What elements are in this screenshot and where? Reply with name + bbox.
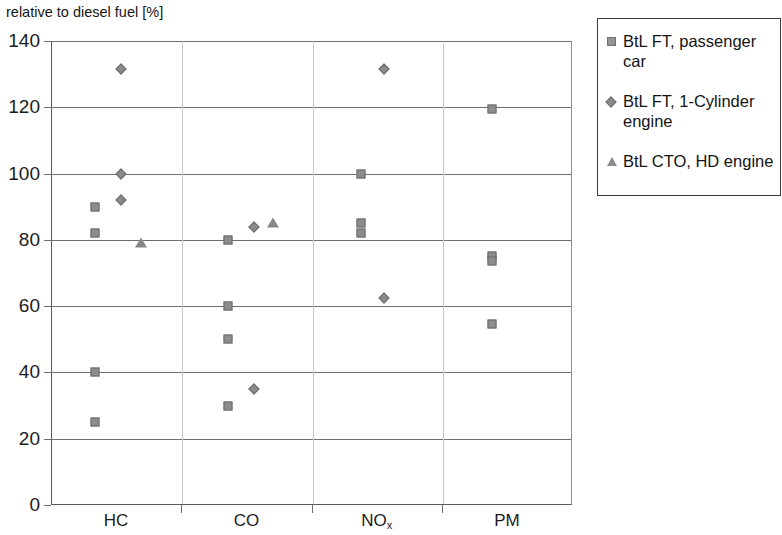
y-axis-tick-label: 40 — [19, 362, 40, 381]
y-axis-tick-mark — [44, 107, 51, 108]
data-point-square — [488, 320, 497, 329]
data-point-square — [90, 229, 99, 238]
gridline — [52, 174, 571, 175]
data-point-diamond — [378, 63, 389, 74]
data-point-square — [356, 219, 365, 228]
plot-area — [51, 41, 572, 505]
gridline — [52, 372, 571, 373]
gridline — [52, 41, 571, 42]
y-axis-tick-mark — [44, 240, 51, 241]
data-point-square — [223, 235, 232, 244]
data-point-square — [356, 169, 365, 178]
legend-entry[interactable]: BtL FT, 1-Cylinder engine — [607, 91, 779, 131]
gridline — [52, 240, 571, 241]
y-axis-tick-mark — [44, 41, 51, 42]
legend-label: BtL FT, 1-Cylinder engine — [623, 91, 779, 131]
triangle-icon — [607, 157, 617, 166]
data-point-diamond — [115, 63, 126, 74]
data-point-diamond — [378, 292, 389, 303]
y-axis-tick-mark — [44, 174, 51, 175]
y-axis-tick-label: 60 — [19, 296, 40, 315]
data-point-square — [488, 257, 497, 266]
y-axis-tick-mark — [44, 306, 51, 307]
y-axis-tick-mark — [44, 372, 51, 373]
x-axis-tick-label: CO — [234, 511, 260, 530]
y-axis-tick-mark — [44, 439, 51, 440]
data-point-diamond — [248, 383, 259, 394]
x-axis-tick-label: HC — [104, 511, 129, 530]
y-axis-tick-label: 120 — [8, 97, 40, 116]
data-point-triangle — [135, 238, 147, 248]
x-axis-tick-label: PM — [494, 511, 520, 530]
y-axis-tick-label: 0 — [29, 495, 40, 514]
x-axis-tick-mark — [442, 505, 443, 513]
category-separator — [443, 41, 444, 504]
x-axis-tick-mark — [312, 505, 313, 513]
y-axis-tick-label: 80 — [19, 230, 40, 249]
data-point-diamond — [248, 221, 259, 232]
gridline — [52, 306, 571, 307]
data-point-square — [356, 229, 365, 238]
data-point-square — [90, 368, 99, 377]
data-point-square — [223, 302, 232, 311]
legend-marker-triangle-icon — [607, 151, 623, 171]
y-axis-tick-label: 20 — [19, 429, 40, 448]
data-point-diamond — [115, 168, 126, 179]
data-point-square — [488, 104, 497, 113]
y-axis-title: relative to diesel fuel [%] — [6, 2, 163, 22]
x-axis-tick-label: NOx — [361, 511, 392, 532]
y-axis-tick-label: 100 — [8, 164, 40, 183]
data-point-square — [223, 401, 232, 410]
diamond-icon — [605, 96, 616, 107]
square-icon — [607, 37, 616, 46]
legend-marker-square-icon — [607, 31, 623, 51]
y-axis-tick-label: 140 — [8, 31, 40, 50]
gridline — [52, 439, 571, 440]
legend-marker-diamond-icon — [607, 91, 623, 111]
data-point-diamond — [115, 194, 126, 205]
chart-legend: BtL FT, passenger carBtL FT, 1-Cylinder … — [597, 18, 781, 196]
legend-label: BtL FT, passenger car — [623, 31, 779, 71]
x-axis-tick-mark — [181, 505, 182, 513]
legend-entry[interactable]: BtL CTO, HD engine — [607, 151, 779, 171]
legend-entry[interactable]: BtL FT, passenger car — [607, 31, 779, 71]
data-point-square — [223, 335, 232, 344]
data-point-square — [90, 202, 99, 211]
category-separator — [182, 41, 183, 504]
y-axis-tick-mark — [44, 505, 51, 506]
data-point-triangle — [267, 218, 279, 228]
legend-label: BtL CTO, HD engine — [623, 151, 773, 171]
category-separator — [313, 41, 314, 504]
data-point-square — [90, 418, 99, 427]
